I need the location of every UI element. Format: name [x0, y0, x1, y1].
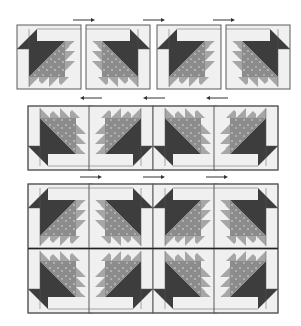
basket-block-16	[214, 249, 278, 313]
basket-block-6	[89, 106, 153, 170]
arrow-right-icon	[206, 175, 228, 179]
arrow-left-icon	[143, 96, 165, 100]
basket-block-11	[28, 249, 92, 313]
step-row-2	[28, 96, 278, 170]
basket-block-10	[89, 184, 153, 248]
quilt-assembly-diagram	[0, 0, 301, 326]
basket-block-9	[28, 184, 92, 248]
arrow-right-icon	[143, 18, 165, 22]
arrow-right-icon	[73, 18, 95, 22]
basket-block-12	[89, 249, 153, 313]
basket-block-3	[157, 25, 221, 89]
basket-block-5	[28, 106, 92, 170]
basket-block-14	[214, 184, 278, 248]
basket-block-2	[86, 25, 150, 89]
basket-block-13	[153, 184, 217, 248]
basket-block-1	[17, 25, 81, 89]
arrow-right-icon	[213, 18, 235, 22]
arrow-left-icon	[80, 96, 102, 100]
step-row-3	[28, 175, 278, 313]
arrow-right-icon	[80, 175, 102, 179]
arrow-left-icon	[206, 96, 228, 100]
step-row-1	[17, 18, 290, 89]
basket-block-7	[153, 106, 217, 170]
basket-block-8	[214, 106, 278, 170]
basket-block-4	[226, 25, 290, 89]
arrow-right-icon	[143, 175, 165, 179]
basket-block-15	[153, 249, 217, 313]
